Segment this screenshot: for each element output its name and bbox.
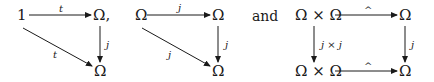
label-3-bottom: ^ bbox=[364, 61, 372, 71]
label-1-right: j bbox=[106, 40, 109, 50]
node-1-bottom-right: Ω bbox=[94, 64, 106, 79]
arrow-1-diagonal bbox=[23, 28, 92, 66]
label-3-right: j bbox=[411, 40, 414, 50]
connector-text: and bbox=[252, 9, 278, 23]
arrow-2-diagonal bbox=[142, 28, 210, 66]
label-1-diagonal: t bbox=[53, 50, 57, 60]
node-3-top-right: Ω bbox=[399, 8, 411, 23]
label-2-diagonal: j bbox=[168, 50, 171, 60]
node-2-top-left: Ω bbox=[135, 8, 147, 23]
node-3-bottom-right: Ω bbox=[399, 64, 411, 79]
node-1-top-left: 1 bbox=[17, 8, 27, 23]
node-2-bottom-right: Ω bbox=[212, 64, 224, 79]
label-3-left: j × j bbox=[321, 40, 342, 50]
node-3-bottom-left: Ω × Ω bbox=[295, 64, 342, 79]
label-2-top: j bbox=[178, 3, 181, 13]
node-3-top-left: Ω × Ω bbox=[295, 8, 342, 23]
label-1-top: t bbox=[59, 4, 63, 14]
node-1-top-right: Ω, bbox=[93, 8, 110, 23]
label-3-top: ^ bbox=[364, 5, 372, 15]
label-2-right: j bbox=[225, 40, 228, 50]
node-2-top-right: Ω bbox=[212, 8, 224, 23]
